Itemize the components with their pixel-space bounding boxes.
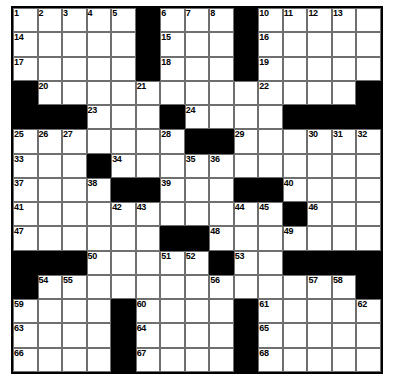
grid-cell[interactable]: 30 xyxy=(307,129,332,153)
grid-cell[interactable] xyxy=(258,251,283,275)
grid-cell[interactable] xyxy=(356,178,381,202)
grid-cell[interactable]: 54 xyxy=(38,275,63,299)
grid-cell[interactable] xyxy=(87,299,112,323)
grid-cell[interactable]: 50 xyxy=(87,251,112,275)
grid-cell[interactable] xyxy=(185,57,210,81)
grid-cell[interactable]: 27 xyxy=(62,129,87,153)
grid-cell[interactable] xyxy=(332,348,357,372)
grid-cell[interactable] xyxy=(332,299,357,323)
grid-cell[interactable] xyxy=(283,81,308,105)
grid-cell[interactable]: 61 xyxy=(258,299,283,323)
grid-cell[interactable]: 58 xyxy=(332,275,357,299)
grid-cell[interactable] xyxy=(234,154,259,178)
grid-cell[interactable] xyxy=(87,57,112,81)
grid-cell[interactable] xyxy=(62,348,87,372)
grid-cell[interactable] xyxy=(136,275,161,299)
grid-cell[interactable] xyxy=(62,323,87,347)
grid-cell[interactable]: 38 xyxy=(87,178,112,202)
grid-cell[interactable]: 11 xyxy=(283,8,308,32)
grid-cell[interactable] xyxy=(62,57,87,81)
grid-cell[interactable] xyxy=(234,226,259,250)
grid-cell[interactable] xyxy=(111,226,136,250)
grid-cell[interactable] xyxy=(209,57,234,81)
grid-cell[interactable]: 65 xyxy=(258,323,283,347)
grid-cell[interactable] xyxy=(62,226,87,250)
grid-cell[interactable] xyxy=(185,178,210,202)
grid-cell[interactable] xyxy=(38,57,63,81)
grid-cell[interactable] xyxy=(38,299,63,323)
grid-cell[interactable]: 24 xyxy=(185,105,210,129)
grid-cell[interactable]: 4 xyxy=(87,8,112,32)
grid-cell[interactable]: 47 xyxy=(13,226,38,250)
grid-cell[interactable]: 48 xyxy=(209,226,234,250)
grid-cell[interactable] xyxy=(87,32,112,56)
grid-cell[interactable] xyxy=(111,81,136,105)
grid-cell[interactable]: 59 xyxy=(13,299,38,323)
grid-cell[interactable] xyxy=(332,81,357,105)
grid-cell[interactable]: 33 xyxy=(13,154,38,178)
grid-cell[interactable] xyxy=(356,226,381,250)
grid-cell[interactable] xyxy=(332,32,357,56)
grid-cell[interactable] xyxy=(136,251,161,275)
grid-cell[interactable] xyxy=(283,323,308,347)
grid-cell[interactable] xyxy=(38,323,63,347)
grid-cell[interactable] xyxy=(332,178,357,202)
grid-cell[interactable]: 5 xyxy=(111,8,136,32)
grid-cell[interactable]: 56 xyxy=(209,275,234,299)
grid-cell[interactable]: 25 xyxy=(13,129,38,153)
grid-cell[interactable]: 6 xyxy=(160,8,185,32)
grid-cell[interactable] xyxy=(62,299,87,323)
grid-cell[interactable]: 51 xyxy=(160,251,185,275)
grid-cell[interactable]: 40 xyxy=(283,178,308,202)
grid-cell[interactable]: 31 xyxy=(332,129,357,153)
grid-cell[interactable] xyxy=(332,57,357,81)
grid-cell[interactable] xyxy=(38,178,63,202)
grid-cell[interactable] xyxy=(356,8,381,32)
grid-cell[interactable]: 46 xyxy=(307,202,332,226)
grid-cell[interactable]: 15 xyxy=(160,32,185,56)
grid-cell[interactable] xyxy=(356,57,381,81)
grid-cell[interactable] xyxy=(258,226,283,250)
grid-cell[interactable] xyxy=(209,323,234,347)
grid-cell[interactable] xyxy=(307,299,332,323)
grid-cell[interactable]: 26 xyxy=(38,129,63,153)
grid-cell[interactable] xyxy=(38,202,63,226)
grid-cell[interactable] xyxy=(62,154,87,178)
grid-cell[interactable]: 39 xyxy=(160,178,185,202)
grid-cell[interactable] xyxy=(160,202,185,226)
grid-cell[interactable] xyxy=(111,275,136,299)
grid-cell[interactable]: 67 xyxy=(136,348,161,372)
grid-cell[interactable]: 44 xyxy=(234,202,259,226)
grid-cell[interactable]: 52 xyxy=(185,251,210,275)
grid-cell[interactable]: 17 xyxy=(13,57,38,81)
grid-cell[interactable]: 14 xyxy=(13,32,38,56)
grid-cell[interactable]: 62 xyxy=(356,299,381,323)
grid-cell[interactable] xyxy=(87,323,112,347)
grid-cell[interactable] xyxy=(62,32,87,56)
grid-cell[interactable]: 22 xyxy=(258,81,283,105)
grid-cell[interactable] xyxy=(185,81,210,105)
grid-cell[interactable] xyxy=(87,81,112,105)
grid-cell[interactable] xyxy=(356,202,381,226)
grid-cell[interactable] xyxy=(234,81,259,105)
grid-cell[interactable]: 35 xyxy=(185,154,210,178)
grid-cell[interactable] xyxy=(258,105,283,129)
grid-cell[interactable] xyxy=(185,32,210,56)
grid-cell[interactable] xyxy=(307,32,332,56)
grid-cell[interactable] xyxy=(307,226,332,250)
grid-cell[interactable] xyxy=(87,226,112,250)
grid-cell[interactable] xyxy=(209,299,234,323)
grid-cell[interactable] xyxy=(87,202,112,226)
grid-cell[interactable] xyxy=(283,32,308,56)
grid-cell[interactable]: 34 xyxy=(111,154,136,178)
grid-cell[interactable] xyxy=(209,348,234,372)
grid-cell[interactable] xyxy=(160,323,185,347)
grid-cell[interactable] xyxy=(185,275,210,299)
grid-cell[interactable] xyxy=(332,323,357,347)
grid-cell[interactable] xyxy=(332,226,357,250)
grid-cell[interactable] xyxy=(136,226,161,250)
grid-cell[interactable]: 28 xyxy=(160,129,185,153)
grid-cell[interactable] xyxy=(160,154,185,178)
grid-cell[interactable] xyxy=(111,57,136,81)
grid-cell[interactable]: 45 xyxy=(258,202,283,226)
